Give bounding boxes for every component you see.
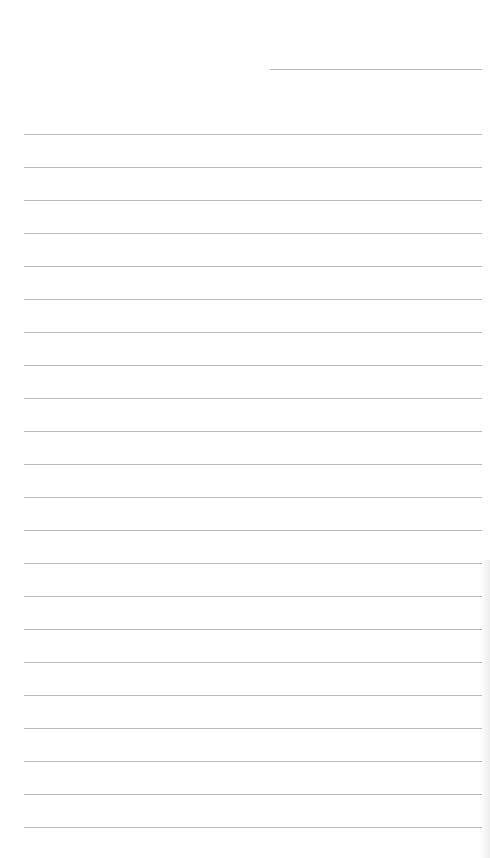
ruled-line (24, 200, 482, 201)
ruled-line (24, 629, 482, 630)
ruled-line (24, 134, 482, 135)
ruled-line (24, 662, 482, 663)
ruled-line (24, 464, 482, 465)
ruled-line (24, 167, 482, 168)
page-edge-shadow (480, 560, 490, 858)
ruled-line (24, 497, 482, 498)
ruled-line (24, 332, 482, 333)
lined-paper-page (0, 0, 490, 858)
ruled-line (24, 761, 482, 762)
ruled-line (24, 233, 482, 234)
ruled-line (24, 365, 482, 366)
ruled-line (24, 398, 482, 399)
ruled-line (24, 596, 482, 597)
ruled-line (24, 728, 482, 729)
ruled-line (24, 431, 482, 432)
ruled-line (24, 794, 482, 795)
ruled-line (24, 695, 482, 696)
ruled-line (24, 530, 482, 531)
header-date-line (270, 69, 482, 70)
ruled-line (24, 266, 482, 267)
ruled-line (24, 299, 482, 300)
ruled-line (24, 827, 482, 828)
ruled-line (24, 563, 482, 564)
